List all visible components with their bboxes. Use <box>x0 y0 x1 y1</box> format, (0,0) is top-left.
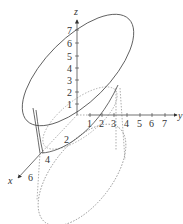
x-tick-4: 4 <box>45 154 50 165</box>
dashed-side-left <box>37 153 40 200</box>
y-tick-3: 3 <box>111 118 116 129</box>
surface-front-curve <box>42 85 118 153</box>
top-ellipse <box>4 0 151 144</box>
z-tick-1: 1 <box>67 99 72 110</box>
z-tick-5: 5 <box>67 51 72 62</box>
z-tick-6: 6 <box>67 38 72 49</box>
x-axis-label: x <box>7 175 13 186</box>
y-tick-5: 5 <box>137 118 142 129</box>
y-tick-2: 2 <box>99 118 104 129</box>
z-tick-4: 4 <box>67 63 72 74</box>
y-tick-6: 6 <box>149 118 154 129</box>
y-tick-4: 4 <box>124 118 129 129</box>
z-tick-2: 2 <box>67 87 72 98</box>
x-tick-2: 2 <box>64 134 69 145</box>
y-tick-7: 7 <box>162 118 167 129</box>
z-axis-label: z <box>73 6 78 17</box>
x-tick-6: 6 <box>28 172 33 183</box>
y-axis-label: y <box>177 110 183 121</box>
3d-diagram: x 2 4 6 y 1 2 3 4 5 6 7 z 1 2 3 4 5 6 7 <box>0 0 183 224</box>
surface-left-edge <box>33 108 43 153</box>
x-axis-hidden <box>42 115 77 152</box>
z-tick-3: 3 <box>67 75 72 86</box>
